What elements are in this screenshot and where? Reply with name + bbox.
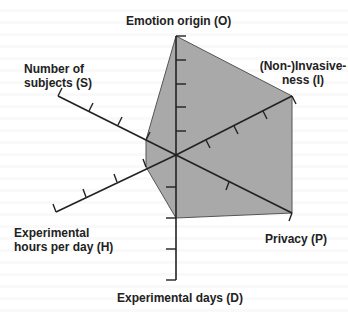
axis-label-hours: Experimental hours per day (H) xyxy=(14,226,113,254)
axis-label-subjects-line1: Number of xyxy=(24,62,92,76)
axis-label-experimental-days: Experimental days (D) xyxy=(110,291,250,305)
axis-label-subjects: Number of subjects (S) xyxy=(24,62,92,90)
axis-label-hours-line2: hours per day (H) xyxy=(14,240,113,254)
axis-label-invasiveness-line1: (Non-)Invasive- xyxy=(258,59,348,73)
axis-label-invasiveness: (Non-)Invasive- ness (I) xyxy=(258,59,348,87)
axis-label-emotion-origin: Emotion origin (O) xyxy=(126,14,226,28)
axis-label-invasiveness-line2: ness (I) xyxy=(258,73,348,87)
axis-label-subjects-line2: subjects (S) xyxy=(24,76,92,90)
radar-chart xyxy=(0,0,348,314)
axis-label-privacy: Privacy (P) xyxy=(265,232,327,246)
axis-label-hours-line1: Experimental xyxy=(14,226,113,240)
